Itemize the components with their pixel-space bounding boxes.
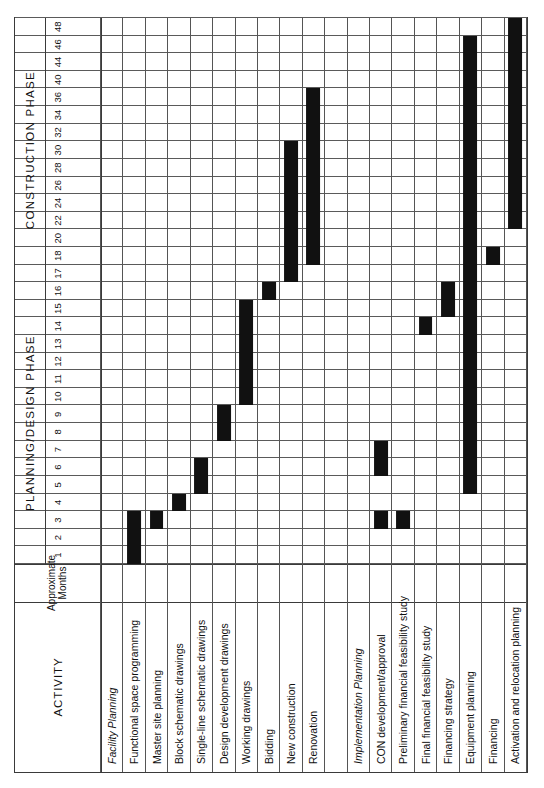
activity-label: Functional space programming xyxy=(123,602,144,772)
table-row: Activation and relocation planning xyxy=(505,18,527,772)
activity-label: Working drawings xyxy=(236,602,257,772)
table-row: Block schematic drawings xyxy=(168,18,190,772)
gantt-rows: Facility PlanningFunctional space progra… xyxy=(101,18,527,772)
gantt-bar xyxy=(150,511,164,529)
rotated-chart-canvas: ACTIVITY Approximate Months 123456789101… xyxy=(8,9,536,779)
gantt-bar xyxy=(441,282,455,317)
table-row: Single-line schematic drawings xyxy=(191,18,213,772)
activity-label: New construction xyxy=(280,602,301,772)
table-row: Master site planning xyxy=(146,18,168,772)
row-timeline xyxy=(146,18,167,564)
activity-label: Renovation xyxy=(303,602,324,772)
gantt-bar xyxy=(486,247,500,265)
gantt-bar xyxy=(374,511,388,529)
row-timeline xyxy=(482,18,503,564)
table-row: New construction xyxy=(280,18,302,772)
table-row: CON development/approval xyxy=(370,18,392,772)
table-row: Financing xyxy=(482,18,504,772)
phase-captions: PLANNING/DESIGN PHASECONSTRUCTION PHASE xyxy=(15,18,45,564)
row-timeline xyxy=(280,18,301,564)
header-separator xyxy=(101,18,102,772)
gantt-bar xyxy=(217,406,231,441)
gantt-bar xyxy=(284,141,298,282)
gantt-bar xyxy=(307,88,321,264)
activity-label: Single-line schematic drawings xyxy=(191,602,212,772)
gantt-chart-page: ACTIVITY Approximate Months 123456789101… xyxy=(0,0,544,788)
row-timeline xyxy=(213,18,234,564)
activity-label: Equipment planning xyxy=(460,602,481,772)
activity-label: CON development/approval xyxy=(370,602,391,772)
gantt-bar xyxy=(374,441,388,476)
table-row: Equipment planning xyxy=(460,18,482,772)
activity-label: Financing strategy xyxy=(437,602,458,772)
gantt-bar xyxy=(419,317,433,335)
gantt-bar xyxy=(508,18,522,229)
table-row: Working drawings xyxy=(236,18,258,772)
row-timeline xyxy=(415,18,436,564)
table-row: Functional space programming xyxy=(123,18,145,772)
row-timeline xyxy=(392,18,413,564)
table-row: Renovation xyxy=(303,18,325,772)
row-timeline xyxy=(258,18,279,564)
gantt-bar xyxy=(239,300,253,406)
row-timeline xyxy=(236,18,257,564)
row-timeline xyxy=(191,18,212,564)
gantt-bar xyxy=(262,282,276,300)
activity-label: Master site planning xyxy=(146,602,167,772)
gantt-bar xyxy=(194,458,208,493)
phase-caption-row: PLANNING/DESIGN PHASECONSTRUCTION PHASE xyxy=(15,18,45,772)
activity-label: Design development drawings xyxy=(213,602,234,772)
table-row: Preliminary financial feasibility study xyxy=(392,18,414,772)
phase-separator xyxy=(45,18,46,564)
phase-label-1: CONSTRUCTION PHASE xyxy=(15,18,45,282)
row-timeline xyxy=(168,18,189,564)
table-row: Bidding xyxy=(258,18,280,772)
table-row: Financing strategy xyxy=(437,18,459,772)
gantt-bar xyxy=(463,36,477,494)
row-timeline xyxy=(101,18,122,564)
activity-label: Implementation Planning xyxy=(348,602,369,772)
row-spacer xyxy=(325,602,346,772)
activity-label: Activation and relocation planning xyxy=(505,602,526,772)
table-row xyxy=(325,18,347,772)
row-timeline xyxy=(303,18,324,564)
activity-label: Preliminary financial feasibility study xyxy=(392,602,413,772)
table-row: Implementation Planning xyxy=(348,18,370,772)
activity-label: Block schematic drawings xyxy=(168,602,189,772)
table-row: Facility Planning xyxy=(101,18,123,772)
row-timeline xyxy=(460,18,481,564)
row-timeline xyxy=(325,18,346,564)
phase-label-0: PLANNING/DESIGN PHASE xyxy=(15,282,45,564)
activity-label: Facility Planning xyxy=(101,602,122,772)
row-timeline xyxy=(437,18,458,564)
row-timeline xyxy=(505,18,526,564)
gantt-bar xyxy=(396,511,410,529)
activity-label: Final financial feasibility study xyxy=(415,602,436,772)
row-timeline xyxy=(123,18,144,564)
row-timeline xyxy=(348,18,369,564)
activity-label: Bidding xyxy=(258,602,279,772)
gantt-bar xyxy=(127,511,141,564)
gantt-bar xyxy=(172,494,186,512)
table-row: Design development drawings xyxy=(213,18,235,772)
activity-label: Financing xyxy=(482,602,503,772)
table-row: Final financial feasibility study xyxy=(415,18,437,772)
row-timeline xyxy=(370,18,391,564)
chart-frame: ACTIVITY Approximate Months 123456789101… xyxy=(14,17,528,773)
